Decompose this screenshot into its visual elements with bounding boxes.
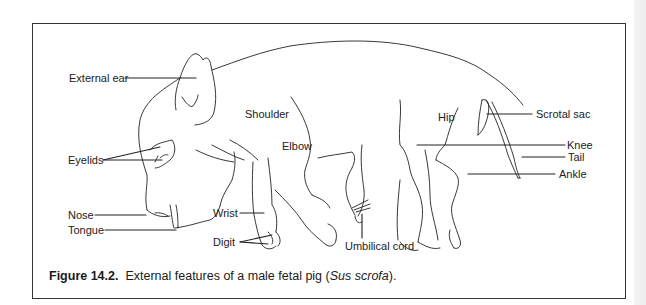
label-wrist: Wrist xyxy=(213,207,238,219)
label-hip: Hip xyxy=(438,111,455,123)
label-elbow: Elbow xyxy=(282,140,312,152)
label-tail: Tail xyxy=(568,151,585,163)
label-eyelids: Eyelids xyxy=(68,154,103,166)
label-shoulder: Shoulder xyxy=(245,108,289,120)
figure-caption: Figure 14.2. External features of a male… xyxy=(49,269,396,283)
label-ankle: Ankle xyxy=(559,168,587,180)
scientific-name: Sus scrofa xyxy=(330,269,389,283)
label-digit: Digit xyxy=(213,236,235,248)
fetal-pig-illustration xyxy=(0,0,646,305)
label-external-ear: External ear xyxy=(69,72,128,84)
label-knee: Knee xyxy=(567,139,593,151)
label-umbilical-cord: Umbilical cord xyxy=(345,240,414,252)
label-scrotal-sac: Scrotal sac xyxy=(536,108,590,120)
figure-number: Figure 14.2. xyxy=(49,269,118,283)
caption-suffix: ). xyxy=(389,269,397,283)
label-tongue: Tongue xyxy=(68,224,104,236)
caption-prefix: External features of a male fetal pig ( xyxy=(125,269,329,283)
label-nose: Nose xyxy=(68,209,94,221)
